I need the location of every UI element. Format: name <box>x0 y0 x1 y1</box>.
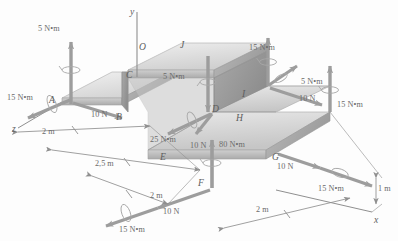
free-body-diagram-figure: y x z O J A C B D I H E F G 5 N•m 15 N•m… <box>0 0 398 241</box>
diagram-canvas <box>0 0 398 241</box>
body-solid <box>62 43 330 190</box>
